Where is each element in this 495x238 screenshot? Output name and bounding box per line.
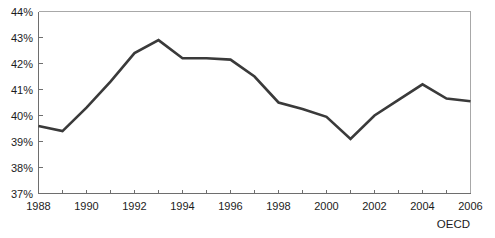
data-series-line — [39, 40, 471, 139]
y-axis-tick-label: 40% — [11, 110, 33, 122]
x-axis-tick-label: 1998 — [266, 200, 290, 212]
x-axis-tick-label: 1990 — [74, 200, 98, 212]
y-axis-tick-label: 43% — [11, 32, 33, 44]
y-axis-tick-labels: 44%43%42%41%40%39%38%37% — [11, 6, 33, 200]
x-axis-tick-label: 2000 — [314, 200, 338, 212]
x-axis-tick-label: 2002 — [362, 200, 386, 212]
y-axis-tick-marks — [39, 12, 43, 194]
y-axis-tick-label: 38% — [11, 162, 33, 174]
source-label: OECD — [437, 218, 470, 230]
x-axis-tick-marks — [39, 190, 471, 194]
x-axis-tick-label: 2006 — [458, 200, 482, 212]
y-axis-tick-label: 37% — [11, 188, 33, 200]
y-axis-tick-label: 42% — [11, 58, 33, 70]
x-axis-tick-label: 1996 — [218, 200, 242, 212]
y-axis-tick-label: 39% — [11, 136, 33, 148]
x-axis-tick-label: 1992 — [122, 200, 146, 212]
line-chart: 44%43%42%41%40%39%38%37% 198819901992199… — [0, 0, 495, 238]
x-axis-tick-label: 1988 — [26, 200, 50, 212]
x-axis-tick-labels: 1988199019921994199619982000200220042006 — [26, 200, 482, 212]
x-axis-tick-label: 1994 — [170, 200, 194, 212]
x-axis-tick-label: 2004 — [410, 200, 434, 212]
y-axis-tick-label: 41% — [11, 84, 33, 96]
chart-page: 44%43%42%41%40%39%38%37% 198819901992199… — [0, 0, 495, 238]
y-axis-tick-label: 44% — [11, 6, 33, 18]
